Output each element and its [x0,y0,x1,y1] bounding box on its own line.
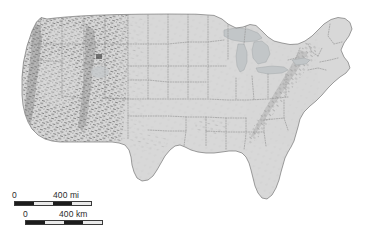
dark-relief-patch [96,54,102,59]
map-scale-bar: 0 400 mi 0 400 km [12,190,122,230]
scale-bar-miles-graphic [14,201,92,206]
scale-miles-max-label: 400 mi [53,190,79,201]
scale-segment [26,221,45,224]
great-salt-lake [91,66,109,78]
scale-labels-kilometers: 0 400 km [12,209,122,220]
scale-row-miles: 0 400 mi [12,190,122,208]
scale-row-kilometers: 0 400 km [12,209,122,227]
scale-segment [83,221,102,224]
ozark-relief [195,117,229,135]
scale-segment [34,202,53,205]
high-plains-relief [118,16,144,142]
scale-kilometers-max-label: 400 km [59,209,87,220]
scale-segment [53,202,72,205]
scale-segment [45,221,64,224]
texas-relief [132,133,168,151]
scale-segment [72,202,91,205]
scale-segment [64,221,83,224]
scale-miles-zero-label: 0 [12,190,17,201]
scale-bar-kilometers-graphic [25,220,103,225]
scale-segment [15,202,34,205]
scale-kilometers-zero-label: 0 [23,209,28,220]
scale-labels-miles: 0 400 mi [12,190,122,201]
